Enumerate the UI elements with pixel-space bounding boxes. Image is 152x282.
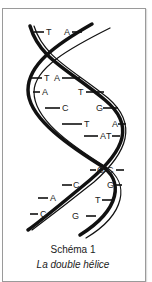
base-label: A (50, 194, 56, 203)
base-label: T (106, 132, 112, 141)
base-label: G (72, 212, 79, 221)
dna-double-helix-diagram (0, 0, 152, 282)
base-label: G (96, 104, 103, 113)
base-label: A (112, 120, 118, 129)
figure-subtitle: La double hélice (0, 259, 146, 270)
base-label: T (84, 120, 90, 129)
base-label: T (78, 88, 84, 97)
base-label: C (62, 104, 69, 113)
figure-title: Schéma 1 (0, 244, 146, 255)
base-label: C (40, 210, 47, 219)
base-label: T (46, 28, 52, 37)
base-label: G (97, 166, 104, 175)
base-label: T (95, 196, 101, 205)
base-label: C (73, 181, 80, 190)
base-label: A (64, 28, 70, 37)
base-label: A (42, 88, 48, 97)
base-label: A (54, 74, 60, 83)
base-label: T (44, 74, 50, 83)
base-label: G (107, 181, 114, 190)
base-label: C (107, 166, 114, 175)
